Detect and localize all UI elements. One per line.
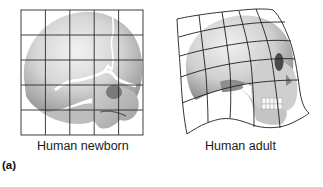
adult-skull-panel: [177, 9, 309, 134]
adult-teeth: [262, 98, 282, 109]
panel-label: (a): [2, 160, 16, 172]
newborn-orbit: [106, 85, 122, 99]
skull-transformation-figure: [0, 0, 323, 187]
adult-orbit: [275, 53, 284, 71]
newborn-skull-panel: [21, 10, 143, 135]
caption-human-newborn: Human newborn: [37, 140, 129, 153]
caption-human-adult: Human adult: [205, 140, 276, 153]
